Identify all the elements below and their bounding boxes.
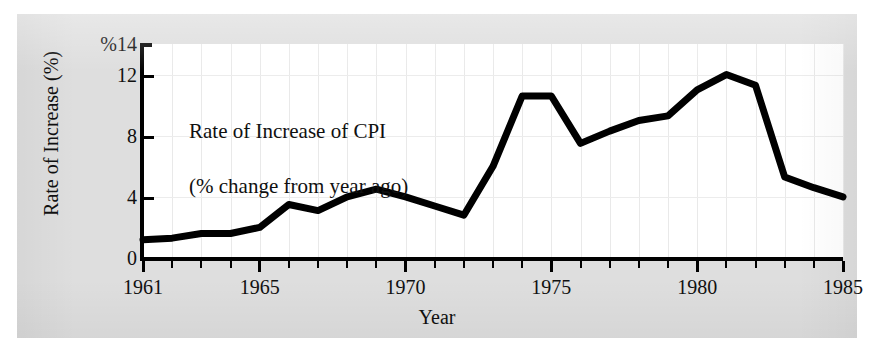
x-axis-minor-tick-mark	[521, 261, 523, 268]
y-axis-tick-mark	[144, 197, 154, 200]
x-axis-minor-tick-mark	[200, 261, 202, 268]
chart-figure: Rate of Increase (%) 04812%14 1961196519…	[17, 14, 857, 338]
x-axis-major-tick-mark	[404, 261, 407, 272]
x-axis-tick-label: 1975	[531, 276, 571, 299]
x-axis-minor-tick-mark	[755, 261, 757, 268]
y-axis-tick-label: 4	[127, 187, 137, 207]
y-axis-tick-mark	[144, 136, 154, 139]
x-axis-minor-tick-mark	[463, 261, 465, 268]
x-axis-minor-tick-mark	[492, 261, 494, 268]
x-axis-title: Year	[17, 306, 857, 329]
x-axis-tick-label: 1985	[823, 276, 863, 299]
x-axis-minor-tick-mark	[638, 261, 640, 268]
x-axis-tick-label: 1961	[123, 276, 163, 299]
x-axis-minor-tick-mark	[230, 261, 232, 268]
x-axis-minor-tick-mark	[346, 261, 348, 268]
x-axis-major-tick-mark	[550, 261, 553, 272]
vertical-gridline	[843, 44, 844, 258]
x-axis-minor-tick-mark	[375, 261, 377, 268]
x-axis-minor-tick-mark	[725, 261, 727, 268]
x-axis-minor-tick-mark	[784, 261, 786, 268]
x-axis-major-tick-mark	[842, 261, 845, 272]
x-axis-major-tick-mark	[258, 261, 261, 272]
x-axis-minor-tick-mark	[434, 261, 436, 268]
y-axis-tick-label: %14	[100, 34, 137, 54]
y-axis-top-cap	[140, 43, 152, 47]
x-axis-major-tick-mark	[696, 261, 699, 272]
x-axis-tick-label: 1965	[240, 276, 280, 299]
annotation-line-1: Rate of Increase of CPI	[189, 118, 408, 146]
y-axis-tick-label: 0	[127, 248, 137, 268]
x-axis-minor-tick-mark	[813, 261, 815, 268]
x-axis-tick-label: 1970	[386, 276, 426, 299]
y-axis-tick-mark	[144, 75, 154, 78]
x-axis-major-tick-mark	[142, 261, 145, 272]
annotation-line-2: (% change from year ago)	[189, 173, 408, 201]
x-axis-minor-tick-mark	[667, 261, 669, 268]
x-axis-minor-tick-mark	[609, 261, 611, 268]
y-axis-tick-label: 12	[117, 65, 137, 85]
x-axis-minor-tick-mark	[171, 261, 173, 268]
chart-annotation: Rate of Increase of CPI (% change from y…	[189, 90, 408, 229]
y-axis-tick-label: 8	[127, 126, 137, 146]
y-axis-title: Rate of Increase (%)	[40, 34, 63, 234]
x-axis-minor-tick-mark	[288, 261, 290, 268]
x-axis-minor-tick-mark	[317, 261, 319, 268]
x-axis-tick-label: 1980	[677, 276, 717, 299]
x-axis-minor-tick-mark	[580, 261, 582, 268]
